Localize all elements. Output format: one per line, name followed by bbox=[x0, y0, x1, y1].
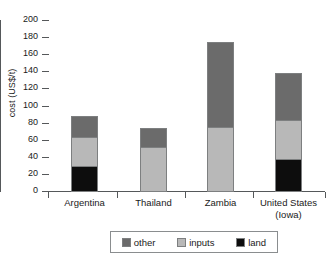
legend-item-inputs: inputs bbox=[177, 237, 214, 248]
legend-item-other: other bbox=[122, 237, 156, 248]
y-tick-label: 100 bbox=[0, 100, 38, 110]
x-axis-label-line: United States bbox=[260, 197, 317, 208]
legend-item-land: land bbox=[236, 237, 266, 248]
y-tick-label: 20 bbox=[0, 168, 38, 178]
bar-segment-land bbox=[275, 159, 302, 192]
y-tick-label: 80 bbox=[0, 117, 38, 127]
x-axis-label-united-states-iowa: United States(Iowa) bbox=[246, 197, 332, 220]
y-tick-label: 40 bbox=[0, 151, 38, 161]
bar-segment-other bbox=[71, 116, 98, 138]
bar-group bbox=[207, 20, 234, 191]
x-axis-label-line: Argentina bbox=[64, 197, 105, 208]
plot-area bbox=[48, 20, 325, 191]
y-tick-label: 140 bbox=[0, 65, 38, 75]
bar-segment-inputs bbox=[207, 127, 234, 192]
y-tick-label: 60 bbox=[0, 134, 38, 144]
y-tick-label: 200 bbox=[0, 14, 38, 24]
bar-segment-other bbox=[207, 42, 234, 128]
bar-group bbox=[71, 20, 98, 191]
bar-segment-inputs bbox=[140, 147, 167, 192]
x-axis-label-line: (Iowa) bbox=[246, 209, 332, 221]
legend-swatch-inputs bbox=[177, 238, 186, 247]
bar-segment-other bbox=[140, 128, 167, 149]
legend-label-inputs: inputs bbox=[189, 237, 214, 248]
x-axis-label-line: Thailand bbox=[135, 197, 171, 208]
bar-segment-land bbox=[71, 166, 98, 192]
legend-label-other: other bbox=[134, 237, 156, 248]
bar-segment-inputs bbox=[275, 120, 302, 159]
y-tick-label: 120 bbox=[0, 82, 38, 92]
bar-group bbox=[140, 20, 167, 191]
bar-segment-inputs bbox=[71, 137, 98, 167]
x-axis-label-line: Zambia bbox=[205, 197, 237, 208]
bar-group bbox=[275, 20, 302, 191]
y-tick-label: 0 bbox=[0, 185, 38, 195]
chart-legend: otherinputsland bbox=[110, 231, 278, 253]
stacked-bar-chart: cost (US$/t) 200180160140120100806040200… bbox=[0, 0, 335, 260]
legend-swatch-other bbox=[122, 238, 131, 247]
legend-swatch-land bbox=[236, 238, 245, 247]
y-tick-label: 180 bbox=[0, 31, 38, 41]
y-tick-label: 160 bbox=[0, 48, 38, 58]
bar-segment-other bbox=[275, 73, 302, 121]
legend-label-land: land bbox=[248, 237, 266, 248]
